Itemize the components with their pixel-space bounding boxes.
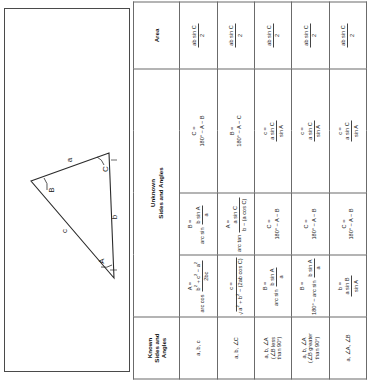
page-root: C B A a b c Known Sides and [0, 0, 370, 381]
cell-known: a, b, ∠C [217, 317, 254, 379]
side-label-c: c [60, 229, 69, 233]
cell-area: ab sin C 2 [329, 1, 366, 68]
formula-prefix: arc sin [199, 227, 205, 243]
cell-known: a, b, ∠A (∠B less than 90°) [255, 317, 292, 379]
fraction: ab sin C 2 [340, 23, 355, 47]
fraction-denominator: 2 [311, 23, 318, 47]
cell-area: ab sin C 2 [180, 1, 217, 68]
fraction-numerator: b sin A [195, 205, 203, 225]
fraction-numerator: a sin C [344, 120, 352, 140]
formula-prefix: arc sin [273, 289, 279, 305]
formula-prefix: 180° − [311, 298, 317, 314]
formula-lhs: C = [341, 194, 348, 253]
cell-unknown-1: A = arc cos b2 + c2 − a2 2bc [180, 255, 217, 317]
fraction-denominator: b − (a cos C) [240, 197, 247, 232]
formula-expression: 180° − A − B [311, 208, 318, 239]
formula-expression: 180° − A − B [274, 208, 281, 239]
known-values: a, b, c [195, 340, 202, 355]
fraction: a sin B sin A [344, 275, 359, 295]
formula-prefix: arc tan [236, 234, 242, 251]
cell-unknown-2: C = 180° − A − B [292, 193, 329, 255]
formula-lhs: c = [262, 70, 269, 191]
fraction: ab sin C 2 [266, 23, 281, 47]
table-row: a, b, c A = arc cos b2 + c2 − a2 2bc [180, 1, 217, 378]
known-values: a, b, ∠A [263, 336, 270, 359]
header-unknown-sides-angles: Unknown Sides and Angles [134, 68, 180, 316]
fraction-denominator: 2 [236, 23, 243, 47]
triangle-diagram-svg: C B A a b c [5, 9, 129, 371]
fraction-denominator: sin A [352, 275, 359, 295]
fraction-denominator: a [277, 267, 284, 287]
fraction: a sin C b − (a cos C) [232, 197, 247, 232]
vertex-label-B: B [47, 187, 56, 192]
cell-unknown-3: C = 180° − A − B [180, 68, 217, 192]
header-unknown-line2: Sides and Angles [157, 70, 164, 315]
header-known-line1: Known [146, 318, 153, 377]
radical: √a2 + b2 − (2ab cos C) [236, 257, 244, 314]
angle-arc-C [97, 157, 104, 165]
formula-prefix-2: arc sin [311, 280, 317, 296]
header-known-sides-angles: Known Sides and Angles [134, 317, 180, 379]
cell-unknown-2: C = 180° − A − B [329, 193, 366, 255]
formula-lhs: c = [337, 70, 344, 191]
fraction-numerator: ab sin C [191, 23, 199, 47]
header-known-line3: Angles [160, 318, 167, 377]
fraction-numerator: ab sin C [228, 23, 236, 47]
formula-lhs: A = [225, 194, 232, 253]
cell-unknown-1: c = √a2 + b2 − (2ab cos C) [217, 255, 254, 317]
triangle-diagram-panel: C B A a b c [4, 8, 130, 372]
fraction-denominator: 2 [199, 23, 206, 47]
formula-lhs: B = [262, 256, 269, 315]
cell-known: a, b, ∠A (∠B greater than 90°) [292, 317, 329, 379]
formula-lhs: c = [299, 70, 306, 191]
cell-unknown-2: A = arc tan a sin C b − (a cos C) [217, 193, 254, 255]
table-header-row: Known Sides and Angles Unknown Sides and… [134, 1, 180, 378]
fraction-denominator: 2 [348, 23, 355, 47]
fraction-denominator: a [203, 205, 210, 225]
header-unknown-line1: Unknown [149, 70, 156, 315]
formula-expression: 180° − A − B [348, 208, 355, 239]
fraction: a sin C sin A [344, 120, 359, 140]
fraction-denominator: sin A [277, 120, 284, 140]
fraction-numerator: ab sin C [303, 23, 311, 47]
fraction-numerator: a sin B [344, 275, 352, 295]
formula-lhs: B = [299, 256, 306, 315]
side-label-a: a [65, 157, 74, 162]
header-area: Area [134, 1, 180, 68]
fraction-numerator: a sin C [269, 120, 277, 140]
table-row: a, b, ∠A (∠B greater than 90°) B = 180° … [292, 1, 329, 378]
formula-lhs: C = [191, 70, 198, 191]
fraction: b sin A a [307, 258, 322, 278]
cell-known: a, b, c [180, 317, 217, 379]
known-values: a, b, ∠C [233, 337, 240, 358]
cell-unknown-1: B = 180° − arc sin b sin A a [292, 255, 329, 317]
known-note-line1: (∠B greater [307, 333, 314, 363]
formula-prefix: arc cos [199, 294, 205, 312]
cell-area: ab sin C 2 [217, 1, 254, 68]
known-values: a, b, ∠A [301, 333, 308, 363]
fraction-denominator: sin A [352, 120, 359, 140]
formula-lhs: C = [303, 194, 310, 253]
formula-expression: 180° − A − C [236, 115, 243, 146]
formula-lhs: b = [337, 256, 344, 315]
fraction-denominator: sin A [315, 120, 322, 140]
fraction: a sin C sin A [269, 120, 284, 140]
cell-unknown-3: c = a sin C sin A [255, 68, 292, 192]
known-note-line1: (∠B less [270, 336, 277, 359]
formula-lhs: B = [229, 70, 236, 191]
formula-lhs: B = [187, 194, 194, 253]
radicand: a2 + b2 − (2ab cos C) [236, 257, 244, 311]
formula-lhs: c = [228, 256, 235, 315]
cell-unknown-3: c = a sin C sin A [292, 68, 329, 192]
formula-lhs: C = [266, 194, 273, 253]
fraction: a sin C sin A [307, 120, 322, 140]
fraction-numerator: a sin C [232, 197, 240, 232]
formula-expression: 180° − A − B [199, 115, 206, 146]
vertex-label-C: C [101, 166, 110, 172]
cell-area: ab sin C 2 [292, 1, 329, 68]
fraction-numerator: ab sin C [266, 23, 274, 47]
cell-unknown-1: b = a sin B sin A [329, 255, 366, 317]
fraction: ab sin C 2 [303, 23, 318, 47]
fraction: ab sin C 2 [228, 23, 243, 47]
table-row: a, b, ∠C c = √a2 + b2 − (2ab cos C) A = … [217, 1, 254, 378]
